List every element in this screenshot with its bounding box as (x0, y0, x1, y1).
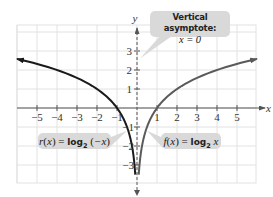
f-log: log (191, 137, 207, 147)
asymptote-equation: x = 0 (150, 34, 230, 45)
r-var: x (47, 135, 52, 147)
r-name: r (39, 135, 43, 147)
y-tick-label: −1 (122, 121, 134, 133)
r-arg: −x (94, 135, 106, 147)
f-var: x (170, 135, 175, 147)
asymptote-equation-text: x = 0 (179, 34, 201, 45)
f-name: f (164, 135, 167, 147)
f-base: 2 (206, 142, 211, 150)
y-axis-down-arrow (134, 190, 140, 196)
asymptote-title: Vertical asymptote: (150, 12, 230, 34)
asymptote-callout: Vertical asymptote: x = 0 (150, 11, 230, 37)
y-tick-label: 3 (127, 45, 133, 57)
r-base: 2 (83, 142, 88, 150)
x-tick-label: −2 (91, 111, 103, 123)
x-tick-label: 2 (174, 111, 180, 123)
plot-area: −5−4−3−2−112345321−1−2−3xy (0, 0, 273, 197)
x-tick-label: −5 (31, 111, 43, 123)
f-leader (147, 131, 161, 146)
x-tick-label: −4 (51, 111, 63, 123)
r-log: log (67, 137, 83, 147)
y-tick-label: 1 (127, 83, 133, 95)
x-axis-label: x (265, 102, 271, 114)
x-tick-label: 5 (234, 111, 240, 123)
log-graph-figure: −5−4−3−2−112345321−1−2−3xy Vertical asym… (0, 0, 273, 197)
x-tick-label: 4 (214, 111, 220, 123)
y-tick-label: 2 (127, 64, 133, 76)
y-axis-label: y (132, 12, 138, 24)
callout-leaders (111, 36, 172, 146)
x-tick-label: 1 (154, 111, 160, 123)
y-tick-label: −2 (122, 140, 134, 152)
y-tick-label: −3 (122, 159, 134, 171)
x-tick-label: −1 (111, 111, 123, 123)
r-function-label: r(x) = log2 (−x) (38, 133, 111, 149)
x-tick-label: −3 (71, 111, 83, 123)
x-tick-label: 3 (194, 111, 200, 123)
f-arg: x (214, 135, 219, 147)
f-function-label: f(x) = log2 x (161, 133, 221, 149)
